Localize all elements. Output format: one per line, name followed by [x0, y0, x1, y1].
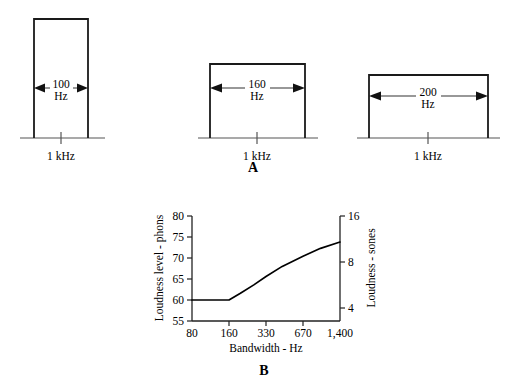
arrow-head-left-1 [34, 84, 45, 93]
figure-svg: 100 Hz 1 kHz 160 Hz 1 kHz [0, 0, 505, 383]
x-tick-label: 670 [294, 327, 312, 339]
arrow-head-right-2 [293, 84, 305, 93]
x-axis-ticks: 801603306701,400 [186, 321, 353, 340]
y-left-tick-label: 75 [173, 231, 185, 243]
band-unit-label-2: Hz [250, 90, 263, 102]
panel-a-label: A [238, 160, 268, 176]
y-left-tick-label: 80 [173, 210, 185, 222]
y-axis-left-ticks: 556065707580 [173, 210, 193, 327]
band-center-label-3: 1 kHz [414, 150, 442, 162]
arrow-head-left-3 [369, 92, 381, 101]
x-tick-label: 80 [186, 327, 198, 339]
figure-container: 100 Hz 1 kHz 160 Hz 1 kHz [0, 0, 505, 383]
arrow-head-right-1 [77, 84, 88, 93]
panel-a: 100 Hz 1 kHz 160 Hz 1 kHz [20, 19, 500, 162]
band-center-label-1: 1 kHz [47, 150, 75, 162]
x-tick-label: 160 [220, 327, 238, 339]
band-width-label-2: 160 [248, 78, 266, 90]
band-160hz: 160 Hz 1 kHz [198, 64, 318, 162]
y-axis-left-title: Loudness level - phons [153, 214, 166, 321]
y-axis-right-title: Loudness - sones [365, 228, 377, 308]
y-left-tick-label: 55 [173, 315, 185, 327]
y-axis-right-ticks: 4816 [340, 210, 360, 314]
y-left-tick-label: 65 [173, 273, 185, 285]
band-unit-label-1: Hz [54, 90, 67, 102]
y-right-tick-label: 8 [348, 256, 354, 268]
panel-b-chart: 556065707580 4816 801603306701,400 Loudn… [153, 210, 377, 354]
y-left-tick-label: 60 [173, 294, 185, 306]
y-right-tick-label: 16 [348, 210, 360, 222]
band-width-label-3: 200 [419, 86, 437, 98]
band-unit-label-3: Hz [421, 98, 434, 110]
panel-b-label: B [249, 363, 279, 379]
x-axis-title: Bandwidth - Hz [229, 342, 302, 354]
arrow-head-right-3 [476, 92, 488, 101]
y-right-tick-label: 4 [348, 302, 354, 314]
x-tick-label: 1,400 [327, 327, 353, 340]
x-tick-label: 330 [257, 327, 275, 339]
band-width-label-1: 100 [52, 78, 70, 90]
band-200hz: 200 Hz 1 kHz [357, 75, 500, 162]
y-left-tick-label: 70 [173, 252, 185, 264]
loudness-curve-line [192, 242, 340, 300]
band-100hz: 100 Hz 1 kHz [20, 19, 105, 162]
arrow-head-left-2 [210, 84, 222, 93]
